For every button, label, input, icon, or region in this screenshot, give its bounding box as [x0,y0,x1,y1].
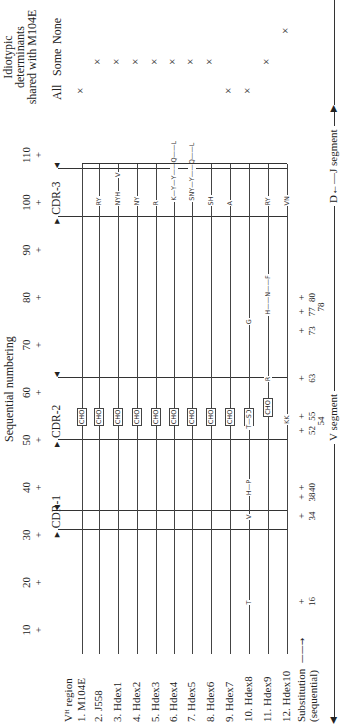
cho-glycosylation-box: CHO [263,398,273,417]
cho-glycosylation-box: CHO [77,408,87,427]
idiotype-mark-some: × [131,58,140,65]
cdr-start-line [58,529,287,530]
tick-label: 20 [20,568,32,598]
cdr-end-line [58,510,287,511]
substitution-label: Substitution ——→ (sequential) [296,638,319,722]
tick-label: 30 [20,520,32,550]
cdr-end-line [58,377,287,378]
tick-label: 40 [20,473,32,503]
substitution-label: VN [283,195,291,206]
tick-mark: + [33,330,44,360]
cdr-boundary-arrow-icon: ▶ [53,442,61,447]
substitution-label: SNY—Y——Q——L [188,142,196,202]
idiotypic-header: Idiotypic determinants shared with M104E [2,2,38,112]
idiotype-mark-none: × [281,27,290,34]
cdr-boundary-arrow-icon: ▶ [53,532,61,537]
substitution-position: 80 [307,290,317,306]
cho-glycosylation-box: CHO [132,408,142,427]
tick-mark: + [33,520,44,550]
substitution-label-line1: Substitution [295,669,307,722]
row-label: 9. Hdex7 [223,682,235,722]
idiotype-mark-some: × [150,58,159,65]
dj-segment-label: D←—J segment [327,126,339,206]
substitution-tick: + [296,473,307,503]
substitution-position: 63 [307,370,317,386]
tick-mark: + [33,425,44,455]
idiotype-mark-some: × [186,58,195,65]
substitution-position: 73 [307,323,317,339]
row-label: 5. Hdex3 [149,682,161,722]
cdr-label: CDR-1 [50,495,62,528]
row-label: 2. J558 [92,690,104,722]
dj-segment-right-arrow: ▶ [328,105,338,112]
idiotype-mark-some: × [262,58,271,65]
substitution-label: T—S [245,413,253,430]
cdr-boundary-arrow-icon: ◀ [53,505,61,510]
row-label: 6. Hdex4 [167,682,179,722]
v-segment-label: V segment [327,391,339,444]
idiotype-mark-all: × [224,87,233,94]
substitution-label: G [245,318,253,325]
tick-mark: + [33,188,44,218]
substitution-tick: + [296,283,307,313]
substitution-label: R [264,376,272,383]
substitution-tick: + [296,587,307,617]
idiotype-mark-all: × [243,87,252,94]
cdr-start-line [58,216,287,217]
cho-glycosylation-box: CHO [113,408,123,427]
tick-label: 70 [20,330,32,360]
row-label: 1. M104E [75,678,87,722]
tick-label: 10 [20,615,32,645]
row-label: 12. Hdex10 [280,671,292,722]
row-label: 4. Hdex2 [130,682,142,722]
substitution-label: NY [133,196,141,207]
cho-glycosylation-box: CHO [206,408,216,427]
figure-frame: Sequential numbering Idiotypic determina… [0,0,350,724]
tick-mark: + [33,235,44,265]
figure-title: Sequential numbering [2,336,17,442]
cdr-start-line [58,439,287,440]
cdr-label: CDR-3 [50,182,62,215]
substitution-label: RY [264,196,272,206]
substitution-position: 78 [316,299,326,315]
idiotypic-col-some: Some [50,49,65,76]
tick-label: 110 [20,140,32,170]
region-header: Vᴴ region [62,678,74,722]
row-label: 10. Hdex8 [242,676,254,722]
j-segment-end-line [82,164,287,165]
cho-glycosylation-box: CHO [187,408,197,427]
cdr-boundary-arrow-icon: ▶ [53,218,61,223]
tick-mark: + [33,283,44,313]
substitution-position: 34 [307,508,317,524]
idiotype-mark-some: × [112,58,121,65]
substitution-label: R [152,200,160,207]
substitution-label: V [245,514,253,520]
substitution-label: NYH [114,191,122,207]
idiotype-mark-some: × [205,58,214,65]
tick-label: 60 [20,378,32,408]
substitution-tick: + [296,363,307,393]
substitution-label: RY [95,196,103,206]
cho-glycosylation-box: CHO [169,408,179,427]
cdr-label: CDR-2 [50,405,62,438]
substitution-position: 55 [307,408,317,424]
cho-glycosylation-box: CHO [151,408,161,427]
idiotypic-header-line3: shared with M104E [26,2,38,112]
sequence-line [287,165,288,655]
idiotype-mark-all: × [76,87,85,94]
idiotype-mark-some: × [93,58,102,65]
row-label: 8. Hdex6 [204,682,216,722]
cho-glycosylation-box: CHO [94,408,104,427]
tick-label: 100 [20,188,32,218]
cho-glycosylation-box: CHO [225,408,235,427]
substitution-tick: + [296,401,307,431]
substitution-label: KK [283,414,291,425]
v-segment-left-arrow: ◀ [328,717,338,724]
idiotypic-col-none: None [50,18,65,44]
substitution-label: A [226,200,234,206]
row-label: 7. Hdex5 [185,682,197,722]
tick-mark: + [33,615,44,645]
substitution-label: H—P [245,479,253,496]
tick-label: 50 [20,425,32,455]
tick-mark: + [33,568,44,598]
